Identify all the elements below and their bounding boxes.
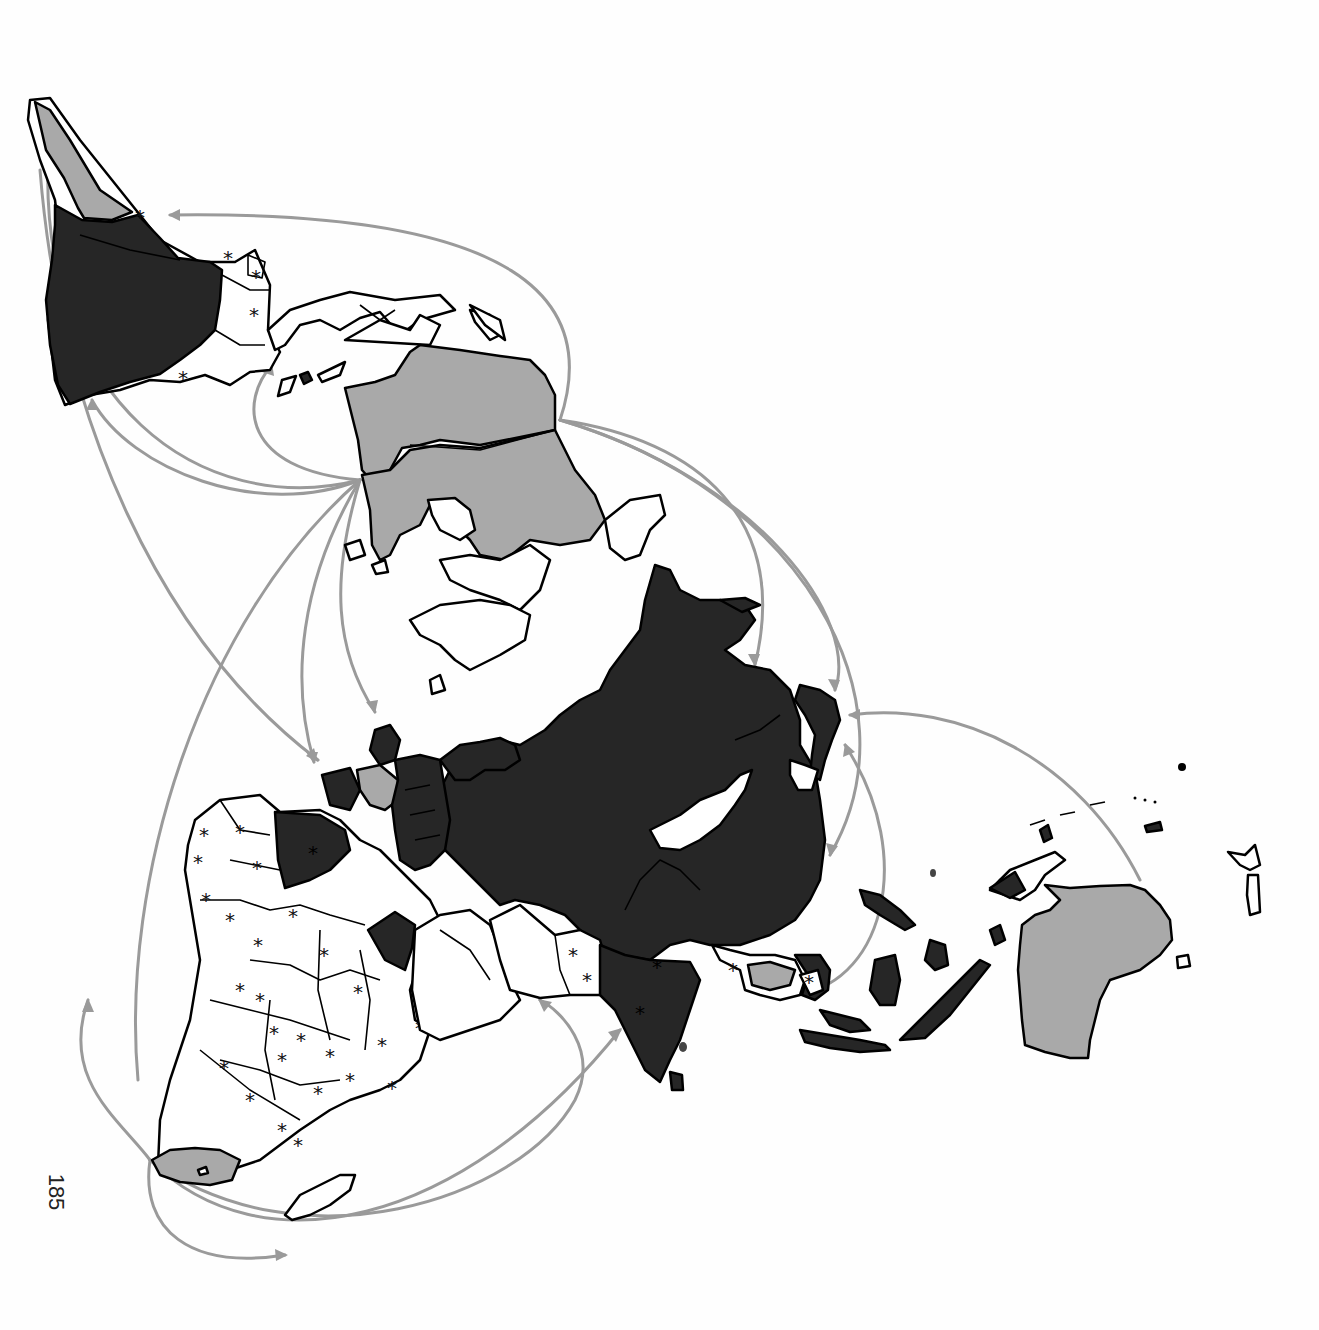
marker-asterisk: *	[252, 856, 262, 880]
marker-asterisk: *	[582, 968, 592, 992]
region-borneo	[870, 955, 900, 1005]
marker-asterisk: *	[635, 1001, 645, 1025]
flow-arrow	[302, 480, 360, 762]
marker-asterisk: *	[345, 1068, 355, 1092]
marker-asterisk: *	[325, 1044, 335, 1068]
marker-asterisk: *	[308, 841, 318, 865]
region-australia	[1018, 885, 1172, 1058]
marker-asterisk: *	[313, 1081, 323, 1105]
marker-asterisk: *	[193, 850, 203, 874]
marker-asterisk: *	[728, 958, 738, 982]
arrowhead	[168, 209, 180, 221]
marker-asterisk: *	[277, 1118, 287, 1142]
north-america	[345, 305, 665, 694]
south-america: * * * * *	[28, 98, 280, 405]
marker-asterisk: *	[255, 988, 265, 1012]
marker-asterisk: *	[293, 1133, 303, 1157]
marker-asterisk: *	[251, 265, 261, 289]
marker-asterisk: *	[245, 1088, 255, 1112]
region-sumatra	[800, 1030, 890, 1052]
region-madagascar	[285, 1175, 355, 1220]
arrowhead	[275, 1249, 288, 1261]
arrowhead	[828, 679, 840, 692]
arrowhead	[848, 709, 860, 721]
region-new-zealand-south	[1247, 875, 1260, 915]
indonesia-pacific	[800, 763, 1260, 1058]
marker-asterisk: *	[249, 303, 259, 327]
arrowhead	[843, 743, 855, 757]
marker-asterisk: *	[253, 933, 263, 957]
arrowhead	[82, 998, 94, 1012]
marker-asterisk: *	[235, 820, 245, 844]
marker-asterisk: *	[269, 1021, 279, 1045]
marker-asterisk: *	[652, 955, 662, 979]
region-sri-lanka	[670, 1072, 683, 1090]
region-greenland	[410, 600, 530, 670]
island-dot	[679, 1042, 687, 1052]
region-philippines-2	[925, 940, 948, 970]
region-iberia	[322, 768, 360, 810]
marker-asterisk: *	[225, 908, 235, 932]
marker-asterisk: *	[319, 943, 329, 967]
marker-asterisk: *	[804, 970, 814, 994]
marker-asterisk: *	[135, 205, 145, 229]
region-indonesian-chain	[900, 960, 990, 1040]
region-philippines-1	[860, 890, 915, 930]
island-dot	[930, 869, 936, 877]
marker-asterisk: *	[219, 1056, 229, 1080]
region-malaysia	[820, 1010, 870, 1032]
marker-asterisk: *	[353, 980, 363, 1004]
flow-arrow	[81, 1000, 150, 1160]
marker-asterisk: *	[277, 1048, 287, 1072]
marker-asterisk: *	[223, 246, 233, 270]
marker-asterisk: *	[568, 943, 578, 967]
marker-asterisk: *	[235, 978, 245, 1002]
region-india	[600, 945, 700, 1082]
region-tasmania	[1177, 955, 1190, 968]
marker-asterisk: *	[201, 888, 211, 912]
flow-arrow	[850, 713, 1140, 880]
marker-asterisk: *	[199, 823, 209, 847]
island-dot	[1178, 763, 1186, 771]
region-alaska	[605, 495, 665, 560]
marker-asterisk: *	[296, 1028, 306, 1052]
region-new-zealand-north	[1228, 845, 1260, 870]
region-south-africa	[152, 1148, 240, 1185]
arrowhead	[86, 398, 98, 410]
flow-arrow	[92, 400, 360, 494]
marker-asterisk: *	[377, 1033, 387, 1057]
world-map: * * * * *	[0, 0, 1319, 1330]
page-number: 185	[36, 1172, 76, 1212]
book-page: * * * * *	[0, 0, 1319, 1330]
marker-asterisk: *	[288, 904, 298, 928]
africa: * * * * * * * * * * * * * * * * * * * * …	[152, 795, 440, 1220]
marker-asterisk: *	[178, 366, 188, 390]
marker-asterisk: *	[387, 1076, 397, 1100]
